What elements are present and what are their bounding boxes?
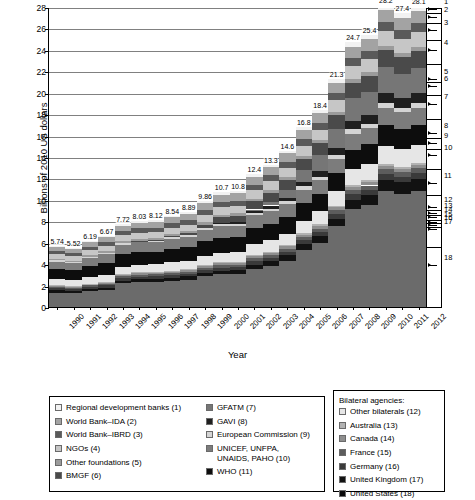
stack-segment: [213, 192, 229, 194]
stack-segment: [49, 286, 65, 287]
legend-item[interactable]: Other bilaterals (12): [339, 407, 444, 417]
x-tick-label: 1994: [133, 312, 152, 331]
legend-item[interactable]: Other foundations (5): [55, 458, 201, 468]
stack-segment: [49, 262, 65, 270]
stack-segment: [296, 240, 312, 244]
column-total-label: 8.03: [132, 213, 147, 221]
stack-segment: [279, 162, 295, 168]
stack-segment: [213, 207, 229, 215]
stack-segment: [296, 159, 312, 170]
stack-segment: [49, 259, 65, 261]
stack-segment: [164, 234, 180, 236]
stack-segment: [312, 226, 328, 229]
stack-segment: [279, 234, 295, 246]
stack-segment: [394, 194, 410, 307]
stack-segment: [328, 206, 344, 208]
stack-segment: [82, 247, 98, 250]
stack-segment: [148, 264, 164, 272]
stack-segment: [378, 10, 394, 23]
stack-segment: [411, 173, 426, 179]
legend-item[interactable]: GFATM (7): [206, 403, 324, 413]
x-tick-label: 2000: [232, 312, 251, 331]
stacked-column: [230, 8, 246, 307]
legend-swatch-icon: [206, 468, 213, 475]
stack-segment: [148, 276, 164, 278]
legend-item[interactable]: NGOs (4): [55, 444, 201, 454]
series-index-arrow-icon: [428, 102, 431, 106]
series-index-separator: [427, 23, 441, 24]
stack-segment: [230, 265, 246, 267]
legend-item[interactable]: Germany (16): [339, 462, 444, 472]
series-index-number: 8: [444, 121, 448, 130]
stack-segment: [328, 83, 344, 93]
stack-segment: [312, 229, 328, 232]
legend-item[interactable]: GAVI (8): [206, 417, 324, 427]
legend-item[interactable]: United Kingdom (17): [339, 475, 444, 485]
stack-segment: [197, 201, 213, 203]
legend-column-2: GFATM (7)GAVI (8)European Commission (9)…: [201, 397, 324, 491]
stack-segment: [148, 272, 164, 273]
legend-main: Regional development banks (1)World Bank…: [49, 396, 325, 492]
stack-segment: [345, 194, 361, 199]
stack-segment: [263, 167, 279, 175]
legend-label: United States (18): [350, 489, 414, 499]
stack-segment: [230, 252, 246, 262]
legend-label: GAVI (8): [217, 417, 248, 427]
legend-item[interactable]: UNICEF, UNFPA,UNAIDS, PAHO (10): [206, 444, 324, 463]
legend-item[interactable]: European Commission (9): [206, 430, 324, 440]
x-tick-mark: [74, 307, 75, 310]
stack-segment: [164, 216, 180, 218]
stack-segment: [65, 270, 81, 280]
stack-segment: [378, 8, 394, 10]
stack-segment: [115, 245, 131, 254]
series-index-arrow-icon: [428, 15, 431, 19]
legend-item[interactable]: Regional development banks (1): [55, 403, 201, 413]
series-index-separator: [427, 149, 441, 150]
stack-segment: [411, 68, 426, 93]
stack-segment: [296, 186, 312, 189]
stack-segment: [213, 223, 229, 224]
stack-segment: [148, 240, 164, 242]
stack-segment: [115, 276, 131, 278]
series-index-arrow-icon: [428, 48, 431, 52]
legend-item[interactable]: BMGF (6): [55, 471, 201, 481]
legend-item[interactable]: World Bank–IBRD (3): [55, 430, 201, 440]
series-index-separator: [427, 119, 441, 120]
stack-segment: [296, 233, 312, 234]
stack-segment: [411, 165, 426, 169]
legend-item[interactable]: WHO (11): [206, 467, 324, 477]
stack-segment: [115, 278, 131, 280]
stack-segment: [230, 206, 246, 214]
stack-segment: [65, 262, 81, 263]
stacked-column: [411, 8, 426, 307]
stack-segment: [180, 220, 196, 225]
stacked-column: [65, 8, 81, 307]
legend-item[interactable]: United States (18): [339, 489, 444, 499]
stack-segment: [148, 252, 164, 265]
stack-segment: [296, 146, 312, 156]
stack-segment: [279, 261, 295, 308]
stack-segment: [394, 39, 410, 53]
stack-segment: [131, 275, 147, 277]
stack-segment: [394, 13, 410, 18]
stacked-column: [82, 8, 98, 307]
x-tick-mark: [287, 307, 288, 310]
stack-segment: [345, 58, 361, 66]
stack-segment: [263, 181, 279, 190]
stack-segment: [378, 103, 394, 108]
stack-segment: [312, 155, 328, 171]
legend-item[interactable]: France (15): [339, 448, 444, 458]
series-index-number: 9: [444, 131, 448, 140]
legend-label: GFATM (7): [217, 403, 256, 413]
legend-item[interactable]: Canada (14): [339, 434, 444, 444]
series-index-separator: [427, 195, 441, 196]
stack-segment: [345, 98, 361, 121]
legend-item[interactable]: World Bank–IDA (2): [55, 417, 201, 427]
x-tick-label: 2012: [429, 312, 448, 331]
stack-segment: [394, 98, 410, 108]
stack-segment: [98, 251, 114, 253]
x-tick-mark: [402, 307, 403, 310]
legend-item[interactable]: Australia (13): [339, 421, 444, 431]
legend-label: BMGF (6): [66, 471, 101, 481]
stack-segment: [230, 216, 246, 223]
